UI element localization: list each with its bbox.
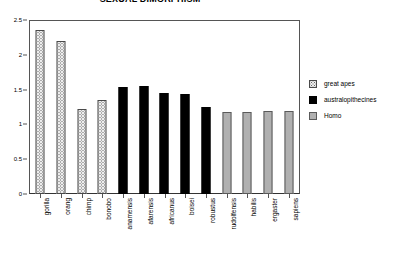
bar-slot [216,20,237,194]
bar-slot [92,20,113,194]
x-axis-tick-label: orang [64,198,71,215]
y-axis-tick-mark [23,124,27,125]
y-axis-tick-mark [23,20,27,21]
legend-label: Homo [324,112,341,120]
x-axis-tick-label: boisei [188,198,195,215]
x-axis-tick-label: sapiens [292,198,299,220]
bar-sapiens [284,111,293,194]
bar-habilis [243,112,252,194]
bar-slot [237,20,258,194]
bars-layer [30,20,299,194]
y-axis: 00.511.522.5 [0,20,27,194]
y-axis-tick-label: 0.5 [14,156,22,162]
legend-swatch-homo [309,112,317,120]
y-axis-tick-mark [23,54,27,55]
bar-gorilla [36,30,45,194]
y-axis-tick-label: 0 [19,191,22,197]
bar-africanus [160,93,169,194]
bar-slot [278,20,299,194]
y-axis-tick-label: 1 [19,121,22,127]
x-axis-tick-label: anamensis [126,198,133,229]
x-axis-tick-label: chimp [85,198,92,215]
y-axis-tick-mark [23,159,27,160]
bar-bonobo [98,100,107,194]
y-axis-tick-mark [23,89,27,90]
x-axis-tick-label: afarensis [147,198,154,224]
bar-slot [258,20,279,194]
y-axis-tick-label: 2 [19,52,22,58]
x-axis-tick-label: gorilla [43,198,50,215]
sexual-dimorphism-bar-chart: SEXUAL DIMORPHISM 00.511.522.5 gorillaor… [0,0,399,253]
bar-anamensis [119,87,128,194]
bar-robustus [201,107,210,194]
chart-title: SEXUAL DIMORPHISM [0,0,300,4]
y-axis-tick-label: 2.5 [14,17,22,23]
bar-rudolfensis [222,112,231,194]
bar-slot [154,20,175,194]
x-axis-labels: gorillaorangchimpbonoboanamensisafarensi… [30,198,299,253]
legend-label: australopithecines [324,96,376,104]
legend-swatch-australopithecines [309,96,317,104]
bar-afarensis [139,86,148,194]
bar-orang [57,41,66,194]
bar-slot [30,20,51,194]
x-axis-tick-label: ergaster [271,198,278,222]
x-axis-tick-label: bonobo [105,198,112,220]
bar-boisei [181,94,190,194]
bar-chimp [77,109,86,194]
legend-label: great apes [324,80,355,88]
bar-slot [113,20,134,194]
bar-slot [133,20,154,194]
x-axis-tick-label: africanus [168,198,175,224]
x-axis-tick-label: rudolfensis [230,198,237,229]
legend: great apesaustralopithecinesHomo [309,76,397,124]
legend-item-homo: Homo [309,108,397,124]
bar-slot [175,20,196,194]
legend-swatch-great-apes [309,80,317,88]
x-axis-tick-label: robustus [209,198,216,223]
bar-slot [71,20,92,194]
x-axis-tick-label: habilis [250,198,257,216]
y-axis-tick-mark [23,194,27,195]
bar-slot [51,20,72,194]
legend-item-australopithecines: australopithecines [309,92,397,108]
legend-item-great-apes: great apes [309,76,397,92]
y-axis-tick-label: 1.5 [14,87,22,93]
bar-slot [196,20,217,194]
bar-ergaster [263,111,272,194]
